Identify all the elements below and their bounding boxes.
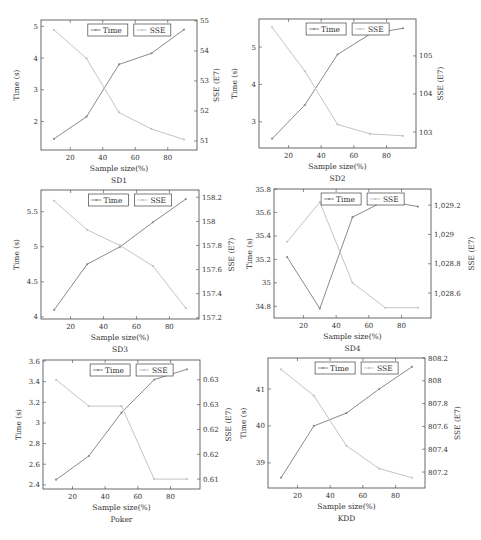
- series-time-line: [54, 199, 186, 310]
- legend-time-label: Time: [330, 364, 350, 373]
- y-axis-label: Time (s): [12, 239, 21, 270]
- charts-canvas: 2040608023455152535455Sample size(%)SD1T…: [0, 0, 481, 540]
- data-point: [53, 309, 55, 311]
- data-point: [153, 379, 155, 381]
- x-axis-label: Sample size(%): [323, 332, 381, 341]
- data-point: [351, 282, 353, 284]
- chart-poker: 204060802.42.62.833.23.43.60.610.620.620…: [14, 358, 233, 524]
- chart-title: SD3: [112, 345, 128, 354]
- y2-axis-label: SSE (E7): [227, 237, 236, 271]
- y-tick-label: 3: [34, 86, 38, 94]
- data-point: [336, 53, 338, 55]
- data-point: [319, 308, 321, 310]
- legend: TimeSSE: [88, 194, 171, 206]
- chart-title: SD2: [330, 174, 346, 183]
- data-point: [271, 26, 273, 28]
- data-point: [119, 244, 121, 246]
- chart-title: KDD: [338, 514, 356, 523]
- data-point: [185, 198, 187, 200]
- legend: TimeSSE: [321, 193, 404, 205]
- data-point: [286, 256, 288, 258]
- x-tick-label: 20: [293, 492, 302, 500]
- data-point: [185, 307, 187, 309]
- data-point: [86, 263, 88, 265]
- x-tick-label: 80: [397, 322, 406, 330]
- data-point: [55, 379, 57, 381]
- y2-tick-label: 807.4: [428, 446, 449, 454]
- chart-sd3: 2040608044.555.5157.2157.4157.6157.81581…: [12, 190, 236, 354]
- data-point: [417, 205, 419, 207]
- series-time-line: [272, 28, 403, 138]
- legend-time-label: Time: [105, 366, 125, 375]
- y2-tick-label: 1,029.2: [434, 202, 461, 210]
- data-point: [186, 368, 188, 370]
- data-point: [150, 128, 152, 130]
- data-point: [304, 104, 306, 106]
- data-point: [417, 307, 419, 309]
- y2-tick-label: 54: [200, 47, 209, 55]
- x-axis-label: Sample size(%): [92, 503, 150, 512]
- y2-tick-label: 103: [419, 129, 432, 137]
- data-point: [120, 405, 122, 407]
- y2-tick-label: 808.2: [428, 355, 448, 363]
- data-point: [53, 200, 55, 202]
- chart-title: SD1: [111, 176, 127, 185]
- data-point: [53, 29, 55, 31]
- y2-axis-label: SSE (E7): [453, 406, 462, 440]
- x-tick-label: 40: [332, 322, 341, 330]
- y-tick-label: 35.2: [255, 256, 271, 264]
- x-tick-label: 60: [358, 492, 367, 500]
- y-axis-label: Time (s): [245, 238, 254, 269]
- data-point: [153, 478, 155, 480]
- y2-axis-label: SSE (E7): [212, 68, 221, 102]
- y-axis-label: Time (s): [12, 69, 21, 100]
- x-tick-label: 20: [284, 152, 293, 160]
- y-tick-label: 35: [262, 279, 271, 287]
- data-point: [85, 116, 87, 118]
- y-tick-label: 2: [34, 118, 38, 126]
- plot-frame: [274, 189, 431, 318]
- legend-time-label: Time: [321, 25, 341, 34]
- x-tick-label: 20: [299, 322, 308, 330]
- data-point: [319, 201, 321, 203]
- legend-sse-label: SSE: [377, 364, 393, 373]
- y2-tick-label: 1,028.8: [434, 260, 461, 268]
- y-tick-label: 3.6: [29, 358, 41, 366]
- data-point: [411, 366, 413, 368]
- x-tick-label: 20: [68, 493, 77, 501]
- y-tick-label: 4: [34, 55, 39, 63]
- y2-axis-label: SSE (E7): [467, 236, 476, 270]
- x-tick-label: 80: [166, 493, 175, 501]
- y-tick-label: 39: [256, 459, 265, 467]
- series-sse-line: [54, 201, 186, 308]
- x-tick-label: 80: [382, 152, 391, 160]
- x-axis-label: Sample size(%): [91, 333, 149, 342]
- legend-sse-label: SSE: [150, 196, 166, 205]
- data-point: [150, 52, 152, 54]
- y2-tick-label: 807.6: [428, 423, 449, 431]
- data-point: [402, 27, 404, 29]
- y-tick-label: 35.4: [255, 232, 271, 240]
- plot-frame: [41, 190, 199, 319]
- series-sse-line: [54, 30, 184, 140]
- x-tick-label: 60: [364, 322, 373, 330]
- data-point: [378, 388, 380, 390]
- y2-tick-label: 0.62: [203, 426, 219, 434]
- y2-tick-label: 157.6: [202, 266, 223, 274]
- data-point: [118, 63, 120, 65]
- y2-tick-label: 0.62: [203, 451, 219, 459]
- y-tick-label: 4: [34, 313, 39, 321]
- y-axis-label: Time (s): [239, 407, 248, 438]
- y2-tick-label: 0.63: [203, 376, 219, 384]
- x-tick-label: 20: [66, 154, 75, 162]
- legend-time-label: Time: [336, 195, 356, 204]
- chart-title: Poker: [111, 515, 133, 524]
- y2-tick-label: 0.63: [203, 401, 219, 409]
- chart-title: SD4: [345, 344, 361, 353]
- y-tick-label: 3.2: [29, 399, 40, 407]
- x-tick-label: 40: [99, 323, 108, 331]
- data-point: [336, 123, 338, 125]
- data-point: [186, 478, 188, 480]
- series-sse-line: [281, 369, 412, 477]
- data-point: [345, 412, 347, 414]
